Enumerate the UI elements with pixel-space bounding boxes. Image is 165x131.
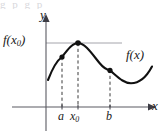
point-a	[59, 54, 64, 59]
y-axis-label: y	[40, 8, 46, 21]
curve-label-fx: f(x)	[126, 48, 144, 61]
value-label-fx0-paren: )	[21, 32, 25, 47]
x-axis-label: x	[152, 99, 158, 112]
x-tick-label-a: a	[58, 110, 64, 122]
point-b	[107, 68, 112, 73]
graph-canvas	[0, 0, 165, 131]
x-tick-label-b: b	[106, 110, 112, 122]
x-tick-label-x0-subscript: 0	[75, 115, 79, 124]
point-x0-maximum	[75, 40, 81, 46]
function-graph-figure: g p g p y x f(x0) f(x) a x0 b	[0, 0, 165, 131]
x-tick-label-x0: x0	[70, 110, 79, 124]
value-label-fx0: f(x0)	[3, 33, 25, 48]
value-label-fx0-main: f(x	[3, 32, 17, 47]
